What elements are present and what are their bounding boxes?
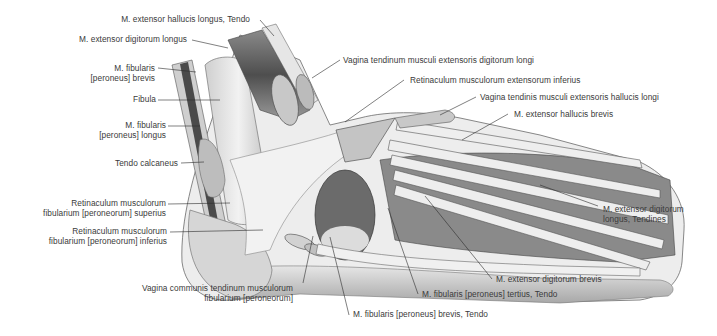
label-edl: M. extensor digitorum longus	[50, 35, 187, 45]
label-ret-sup-line2: fibularium [peroneorum] superius	[20, 209, 166, 219]
label-fibula: Fibula	[100, 95, 156, 105]
label-vag-communis-line2: fibularium [peroneorum]	[120, 294, 293, 304]
label-vag-ehl: Vagina tendinis musculi extensoris hallu…	[480, 93, 659, 103]
label-ret-sup: Retinaculum musculorum fibularium [peron…	[20, 199, 166, 218]
label-ehl-tendo: M. extensor hallucis longus, Tendo	[118, 15, 250, 25]
label-ehb: M. extensor hallucis brevis	[514, 110, 613, 120]
label-tendo-calcaneus: Tendo calcaneus	[90, 159, 178, 169]
anatomy-figure: M. extensor hallucis longus, Tendo M. ex…	[0, 0, 717, 336]
label-fib-longus-line2: [peroneus] longus	[70, 131, 166, 141]
label-fib-brevis-tendo: M. fibularis [peroneus] brevis, Tendo	[353, 310, 488, 320]
label-fib-longus: M. fibularis [peroneus] longus	[70, 121, 166, 140]
label-fib-tertius-tendo: M. fibularis [peroneus] tertius, Tendo	[422, 290, 558, 300]
label-edl-tendines: M. extensor digitorum longus, Tendines	[603, 205, 684, 224]
label-ret-ext-inf: Retinaculum musculorum extensorum inferi…	[410, 76, 580, 86]
label-vag-edl: Vagina tendinum musculi extensoris digit…	[343, 56, 534, 66]
label-vag-communis: Vagina communis tendinum musculorum fibu…	[120, 284, 293, 303]
label-edb: M. extensor digitorum brevis	[496, 275, 602, 285]
label-ret-inf: Retinaculum musculorum fibularium [peron…	[20, 227, 167, 246]
label-edl-tendines-line2: longus, Tendines	[603, 215, 684, 225]
label-ret-inf-line2: fibularium [peroneorum] inferius	[20, 237, 167, 247]
label-fib-brevis: M. fibularis [peroneus] brevis	[60, 64, 155, 83]
label-fib-brevis-line2: [peroneus] brevis	[60, 74, 155, 84]
